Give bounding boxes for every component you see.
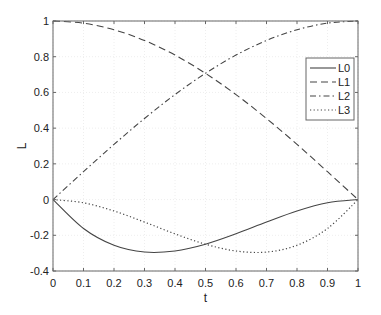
legend: L0 L1 L2 L3 [306, 58, 354, 120]
legend-label: L3 [338, 104, 350, 116]
x-tick-label: 0.6 [228, 277, 243, 289]
y-tick-label: 0.4 [34, 122, 49, 134]
x-tick-label: 0.4 [167, 277, 182, 289]
y-axis-tick-labels: -0.4-0.200.20.40.60.81 [30, 15, 49, 277]
x-axis-tick-labels: 00.10.20.30.40.50.60.70.80.91 [50, 277, 361, 289]
legend-label: L2 [338, 90, 350, 102]
plot-curves [53, 21, 358, 253]
x-tick-label: 0.5 [198, 277, 213, 289]
y-axis-label: L [15, 142, 29, 149]
y-tick-label: 0.8 [34, 51, 49, 63]
y-tick-label: 0.6 [34, 86, 49, 98]
x-axis-label: t [204, 291, 208, 305]
x-tick-label: 0.9 [320, 277, 335, 289]
x-tick-label: 0.1 [76, 277, 91, 289]
x-tick-label: 0.2 [106, 277, 121, 289]
x-tick-label: 1 [355, 277, 361, 289]
x-tick-label: 0.3 [137, 277, 152, 289]
x-tick-label: 0 [50, 277, 56, 289]
x-tick-label: 0.7 [259, 277, 274, 289]
legend-label: L0 [338, 62, 350, 74]
line-chart: 00.10.20.30.40.50.60.70.80.91 -0.4-0.200… [0, 0, 381, 315]
legend-label: L1 [338, 76, 350, 88]
y-tick-label: 0.2 [34, 158, 49, 170]
y-tick-label: -0.4 [30, 265, 49, 277]
y-tick-label: -0.2 [30, 229, 49, 241]
x-tick-label: 0.8 [289, 277, 304, 289]
y-tick-label: 0 [43, 194, 49, 206]
y-tick-label: 1 [43, 15, 49, 27]
